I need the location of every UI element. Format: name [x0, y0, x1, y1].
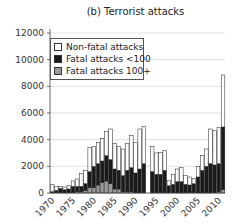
- legend: Non-fatal attacks Fatal attacks <100 Fat…: [50, 38, 144, 80]
- bar-segment: [209, 129, 213, 164]
- bar-segment: [105, 132, 109, 156]
- bar-segment: [138, 129, 142, 169]
- bar-segment: [134, 173, 138, 193]
- bar-segment: [80, 174, 84, 187]
- bar-segment: [71, 186, 75, 192]
- bar-segment: [188, 185, 192, 193]
- bar-segment: [142, 126, 146, 163]
- bar-segment: [130, 136, 134, 168]
- bar-segment: [125, 144, 129, 171]
- y-tick-label: 0: [38, 188, 44, 198]
- bar-segment: [213, 130, 217, 165]
- bar-segment: [130, 168, 134, 192]
- bar-segment: [105, 181, 109, 193]
- x-tick-label: 2010: [200, 195, 223, 218]
- bar-segment: [92, 188, 96, 193]
- bar-segment: [217, 164, 221, 192]
- bar-segment: [213, 165, 217, 193]
- bar-segment: [150, 146, 154, 171]
- bar-segment: [84, 170, 88, 183]
- bar-segment: [96, 142, 100, 163]
- bar-segment: [150, 172, 154, 193]
- bar-segment: [67, 189, 71, 193]
- bar-segment: [188, 177, 192, 185]
- bar-segment: [175, 169, 179, 182]
- legend-label: Non-fatal attacks: [66, 41, 143, 53]
- bar-segment: [125, 170, 129, 191]
- bar-segment: [205, 166, 209, 193]
- bar-segment: [155, 174, 159, 193]
- legend-label: Fatal attacks <100: [66, 53, 151, 65]
- bar-segment: [113, 144, 117, 169]
- bar-segment: [67, 186, 71, 189]
- y-tick-label: 12000: [15, 28, 44, 38]
- bar-segment: [163, 150, 167, 170]
- stacked-bar-chart: 0200040006000800010000120001970197519801…: [0, 0, 241, 224]
- bar-segment: [63, 190, 67, 193]
- bar-segment: [159, 174, 163, 193]
- bar-segment: [192, 178, 196, 183]
- legend-item-fatal-under-100: Fatal attacks <100: [54, 53, 140, 65]
- bar-segment: [88, 172, 92, 188]
- bar-segment: [167, 180, 171, 185]
- bar-segment: [88, 188, 92, 193]
- legend-swatch-non-fatal: [54, 43, 62, 51]
- bar-segment: [184, 176, 188, 185]
- bar-segment: [59, 188, 63, 193]
- y-tick-label: 2000: [21, 161, 44, 171]
- bar-segment: [71, 181, 75, 186]
- x-tick-label: 1995: [137, 195, 160, 218]
- bar-segment: [75, 186, 79, 191]
- bar-segment: [134, 142, 138, 173]
- x-tick-label: 1975: [54, 195, 77, 218]
- y-tick-label: 10000: [15, 55, 44, 65]
- bar-segment: [100, 182, 104, 193]
- bar-segment: [109, 160, 113, 184]
- bar-segment: [96, 185, 100, 193]
- bar-segment: [159, 152, 163, 174]
- bar-segment: [221, 190, 225, 193]
- bar-segment: [142, 164, 146, 193]
- y-tick-label: 6000: [21, 108, 44, 118]
- bar-segment: [92, 146, 96, 166]
- bar-segment: [113, 169, 117, 189]
- bar-segment: [209, 164, 213, 193]
- bar-segment: [50, 184, 54, 191]
- bar-segment: [55, 187, 59, 191]
- bar-segment: [84, 184, 88, 191]
- bar-segment: [175, 182, 179, 193]
- x-tick-label: 1985: [96, 195, 119, 218]
- y-tick-label: 8000: [21, 81, 44, 91]
- y-tick-label: 4000: [21, 135, 44, 145]
- bar-segment: [100, 161, 104, 182]
- bar-segment: [196, 166, 200, 177]
- legend-swatch-fatal-100-plus: [54, 67, 62, 75]
- x-tick-label: 1980: [75, 195, 98, 218]
- bar-segment: [100, 138, 104, 161]
- x-tick-label: 2000: [158, 195, 181, 218]
- x-tick-label: 1990: [117, 195, 140, 218]
- bar-segment: [221, 75, 225, 127]
- bar-segment: [184, 184, 188, 193]
- bar-segment: [180, 182, 184, 193]
- bar-segment: [192, 184, 196, 193]
- bar-segment: [117, 146, 121, 170]
- bar-segment: [80, 186, 84, 191]
- bar-segment: [88, 148, 92, 172]
- bar-segment: [167, 186, 171, 193]
- bar-segment: [121, 149, 125, 176]
- bar-segment: [117, 170, 121, 189]
- bar-segment: [200, 170, 204, 193]
- bar-segment: [109, 184, 113, 193]
- bar-segment: [117, 189, 121, 193]
- bar-segment: [75, 179, 79, 186]
- bar-segment: [63, 187, 67, 190]
- bar-segment: [113, 189, 117, 193]
- bar-segment: [109, 129, 113, 160]
- bar-segment: [163, 170, 167, 193]
- bar-segment: [171, 174, 175, 184]
- bar-segment: [92, 166, 96, 187]
- bar-segment: [217, 128, 221, 164]
- bar-segment: [180, 168, 184, 182]
- bar-segment: [221, 127, 225, 190]
